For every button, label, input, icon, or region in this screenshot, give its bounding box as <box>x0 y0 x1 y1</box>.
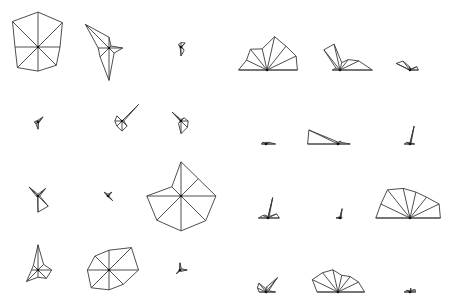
glyph <box>147 162 216 231</box>
spoke <box>181 121 187 127</box>
hub-dot <box>267 217 270 220</box>
glyph <box>376 188 441 219</box>
hub-dot <box>37 121 40 124</box>
spoke <box>381 204 410 218</box>
glyph <box>29 187 48 212</box>
glyph-outline <box>85 24 122 80</box>
spoke <box>157 196 181 220</box>
glyph-outline <box>376 188 441 218</box>
hub-dot <box>180 120 183 123</box>
spoke <box>181 179 198 196</box>
spoke <box>17 47 38 68</box>
hub-dot <box>180 195 183 198</box>
glyph-outline <box>396 61 418 70</box>
glyph <box>324 44 372 71</box>
hub-dot <box>339 69 342 72</box>
hub-dot <box>265 143 268 146</box>
spoke <box>38 47 56 65</box>
glyph <box>312 270 364 294</box>
glyph-outline <box>404 126 414 144</box>
spoke <box>181 196 206 221</box>
hub-dot <box>337 291 340 294</box>
hub-dot <box>37 195 40 198</box>
hub-dot <box>107 195 110 198</box>
spoke <box>172 187 181 196</box>
segment-panel <box>239 37 441 294</box>
spoke <box>247 60 268 70</box>
hub-dot <box>339 217 342 220</box>
spoke <box>100 48 109 57</box>
hub-dot <box>409 291 412 294</box>
glyph-outline <box>27 245 52 282</box>
glyph <box>27 245 52 282</box>
star-plot-figure <box>0 0 456 308</box>
glyph <box>176 263 187 274</box>
glyph <box>404 288 415 293</box>
spoke <box>410 204 439 218</box>
glyph-canvas <box>0 0 456 308</box>
hub-dot <box>108 47 111 50</box>
glyph-outline <box>176 263 187 274</box>
glyph <box>404 126 414 145</box>
glyph-outline <box>336 209 342 218</box>
spoke <box>338 282 359 292</box>
glyph <box>85 24 122 80</box>
glyph <box>396 61 418 71</box>
glyph <box>261 142 275 145</box>
hub-dot <box>409 217 412 220</box>
glyph-outline <box>115 105 139 132</box>
spoke <box>13 22 39 48</box>
glyph <box>239 37 298 72</box>
glyph-outline <box>172 112 188 134</box>
hub-dot <box>409 143 412 146</box>
glyph-outline <box>29 187 48 212</box>
star-panel <box>13 12 216 290</box>
glyph <box>179 43 186 56</box>
spoke <box>95 256 109 270</box>
glyph <box>34 117 43 129</box>
hub-dot <box>266 69 269 72</box>
spoke <box>267 56 296 70</box>
spoke <box>38 23 62 47</box>
glyph <box>308 130 351 145</box>
spoke <box>109 270 123 284</box>
glyph <box>13 12 63 71</box>
glyph <box>336 209 342 220</box>
spoke <box>109 248 131 270</box>
glyph-outline <box>179 43 186 56</box>
hub-dot <box>179 269 182 272</box>
glyph <box>259 198 280 220</box>
spoke <box>85 24 109 48</box>
spoke <box>91 270 109 288</box>
hub-dot <box>337 143 340 146</box>
glyph-outline <box>13 12 63 71</box>
hub-dot <box>265 291 268 294</box>
hub-dot <box>37 269 40 272</box>
glyph <box>172 112 188 134</box>
hub-dot <box>37 46 40 49</box>
hub-dot <box>409 69 412 72</box>
glyph <box>115 105 139 132</box>
glyph <box>257 278 277 294</box>
glyph <box>104 192 112 200</box>
hub-dot <box>180 46 183 49</box>
glyph-outline <box>308 130 351 144</box>
glyph <box>87 248 138 290</box>
hub-dot <box>121 120 124 123</box>
hub-dot <box>108 269 111 272</box>
